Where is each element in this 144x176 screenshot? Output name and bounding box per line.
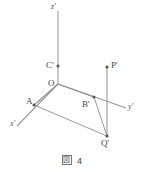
point-label-A: A [26,97,33,106]
axis-label-z-prime: z' [51,3,56,11]
point-marker-B-prime [93,96,96,99]
point-marker-P-prime [105,65,108,68]
point-label-B-prime: B' [82,100,90,109]
figure-container: z' y' x' O C' A B' P' Q' 図4 [0,0,144,176]
axis-label-y-prime: y' [128,103,133,111]
point-label-Q-prime: Q' [101,139,109,148]
point-marker-C-prime [57,65,60,68]
axis-line-x-prime [17,84,58,126]
segment-A-Q-prime [34,105,107,136]
point-label-P-prime: P' [111,61,118,70]
figure-caption-number: 4 [77,156,82,167]
segment-B-prime-Q-prime [94,97,107,136]
figure-caption: 図4 [0,155,144,167]
figure-caption-symbol: 図 [62,155,72,165]
axis-label-x-prime: x' [10,120,15,128]
coordinate-diagram [0,0,144,176]
point-label-C-prime: C' [46,61,54,70]
point-label-O: O [48,79,55,88]
segment-O-B-prime [58,84,94,97]
